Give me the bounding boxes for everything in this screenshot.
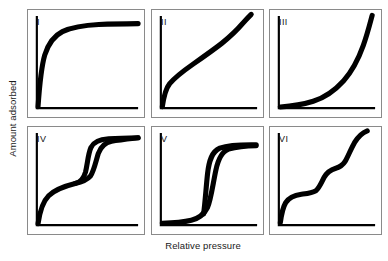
panel-label-3: III [279, 17, 288, 27]
y-axis-label-text: Amount adsorbed [7, 80, 18, 157]
panel-type-3: III [269, 9, 382, 118]
panel-1-curve-adsorption [38, 24, 138, 107]
panel-type-5: V [151, 126, 264, 235]
panel-label-1: I [37, 17, 40, 27]
panel-type-2: II [151, 9, 264, 118]
x-axis-label: Relative pressure [24, 240, 382, 251]
panel-2-curve-adsorption [162, 14, 251, 106]
panel-3-curve-adsorption [280, 15, 372, 107]
panel-label-5: V [161, 134, 167, 144]
panel-2-axes [161, 16, 257, 108]
panel-1-plot [28, 10, 144, 117]
panel-5-plot [152, 127, 263, 234]
panel-6-axes [279, 133, 375, 225]
panel-type-1: I [27, 9, 145, 118]
panel-grid: I II III IV [27, 9, 382, 235]
panel-1-axes [37, 16, 138, 108]
panel-type-6: VI [269, 126, 382, 235]
panel-label-6: VI [279, 134, 288, 144]
adsorption-isotherm-figure: Amount adsorbed I II III [0, 0, 388, 261]
panel-label-4: IV [37, 134, 46, 144]
panel-6-curve-adsorption [280, 131, 367, 223]
panel-label-2: II [161, 17, 167, 27]
panel-type-4: IV [27, 126, 145, 235]
y-axis-label: Amount adsorbed [0, 0, 24, 236]
panel-2-plot [152, 10, 263, 117]
